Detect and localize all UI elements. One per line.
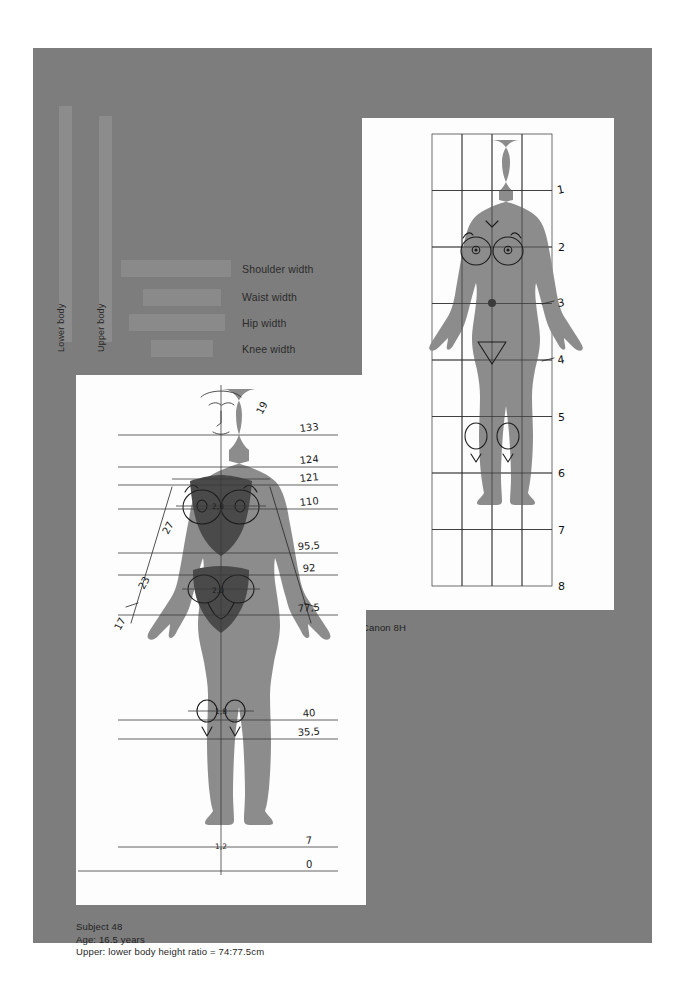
canon-division-8: 8 — [558, 580, 565, 593]
height-mark-77-5: 77,5 — [297, 601, 320, 614]
subject-panel-caption: Subject 48 Age: 16.5 years Upper: lower … — [76, 921, 264, 959]
canon-division-6: 6 — [558, 467, 565, 480]
canon-division-7: 7 — [558, 524, 565, 537]
height-mark-92: 92 — [302, 562, 315, 574]
hip-mark: 2,0 — [212, 586, 224, 595]
measurement-chart: Lower body Upper body Shoulder width Wai… — [33, 48, 373, 368]
subject-figure-panel: 133 124 121 110 95,5 92 77,5 40 35,5 7 0… — [76, 375, 366, 905]
legend-label-shoulder-width: Shoulder width — [242, 263, 314, 275]
horizontal-bar-hip-width — [129, 314, 225, 331]
height-mark-0: 0 — [306, 859, 312, 870]
arm-mark-23: 23 — [136, 575, 152, 591]
canon-division-5: 5 — [558, 411, 565, 424]
horizontal-bar-waist-width — [143, 289, 221, 306]
vertical-bar-label-upper-body: Upper body — [96, 303, 106, 352]
subject-figure-drawing: 133 124 121 110 95,5 92 77,5 40 35,5 7 0… — [76, 375, 366, 905]
canon-figure-drawing: 1 2 3 4 5 6 7 8 — [362, 118, 614, 610]
canon-division-2: 2 — [558, 241, 565, 254]
horizontal-bar-shoulder-width — [121, 260, 231, 277]
canon-panel-caption: Canon 8H — [362, 622, 406, 633]
canon-division-1: 1 — [556, 183, 566, 197]
subject-caption-line-1: Subject 48 — [76, 921, 264, 934]
height-mark-110: 110 — [299, 495, 319, 508]
canon-figure-panel: 1 2 3 4 5 6 7 8 — [362, 118, 614, 610]
subject-caption-line-2: Age: 16.5 years — [76, 934, 264, 947]
height-mark-124: 124 — [299, 453, 319, 466]
arm-mark-17: 17 — [112, 616, 128, 632]
canon-division-4: 4 — [557, 353, 566, 367]
arm-mark-27: 27 — [160, 520, 176, 536]
foot-mark: 1,2 — [215, 842, 227, 851]
knee-mark: 1,8 — [215, 707, 227, 716]
poster-page: Lower body Upper body Shoulder width Wai… — [33, 48, 652, 943]
legend-label-hip-width: Hip width — [242, 317, 287, 329]
height-mark-7: 7 — [305, 835, 312, 846]
chest-mark: 2,8 — [212, 502, 224, 511]
height-mark-133: 133 — [299, 421, 319, 434]
head-mark-19: 19 — [254, 400, 270, 416]
legend-label-waist-width: Waist width — [242, 291, 297, 303]
height-mark-40: 40 — [302, 707, 315, 719]
horizontal-bar-knee-width — [151, 340, 213, 357]
vertical-bar-label-lower-body: Lower body — [56, 303, 66, 352]
legend-label-knee-width: Knee width — [242, 343, 295, 355]
subject-caption-line-3: Upper: lower body height ratio = 74:77.5… — [76, 946, 264, 959]
canon-division-3: 3 — [557, 296, 566, 310]
height-mark-121: 121 — [299, 471, 319, 484]
height-mark-95-5: 95,5 — [297, 539, 320, 552]
height-mark-35-5: 35,5 — [297, 725, 320, 738]
